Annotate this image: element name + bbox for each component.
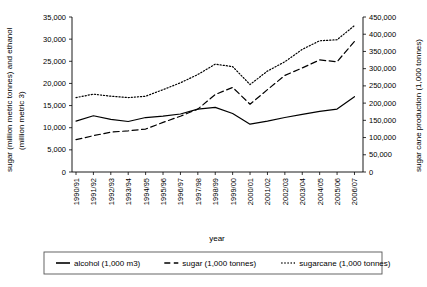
line-chart-figure: sugar (million metric tonnes) and ethano… xyxy=(0,0,427,287)
series-line-dotted xyxy=(76,26,354,98)
y-axis-left-tick-label: 15,000 xyxy=(43,101,66,110)
x-axis-tick-label: 2004/05 xyxy=(316,178,325,205)
x-axis-tick-label: 2001/02 xyxy=(263,178,272,205)
x-axis-tick-label: 2000/01 xyxy=(246,178,255,205)
x-axis-tick-label: 1991/92 xyxy=(89,178,98,205)
x-axis-tick-label: 1996/97 xyxy=(176,178,185,205)
y-axis-right-tick-label: 350,000 xyxy=(369,47,396,56)
x-axis-ticks: 1990/911991/921992/931993/941994/951995/… xyxy=(72,172,359,205)
y-axis-left-tick-label: 20,000 xyxy=(43,79,66,88)
y-axis-title-left-line2: (million metric 3) xyxy=(17,91,26,150)
x-axis-tick-label: 2003/04 xyxy=(298,178,307,205)
y-axis-title-left-line1: sugar (million metric tonnes) and ethano… xyxy=(5,27,14,172)
x-axis-tick-label: 1999/00 xyxy=(229,178,238,205)
y-axis-left-ticks: 05,00010,00015,00020,00025,00030,00035,0… xyxy=(43,13,72,177)
y-axis-left-tick-label: 30,000 xyxy=(43,35,66,44)
legend-label: sugarcane (1,000 tonnes) xyxy=(299,259,391,268)
x-axis-tick-label: 2002/03 xyxy=(281,178,290,205)
series-line-dashed xyxy=(76,41,354,139)
y-axis-left-tick-label: 35,000 xyxy=(43,13,66,22)
x-axis-tick-label: 1990/91 xyxy=(72,178,81,205)
x-axis-title: year xyxy=(209,234,225,243)
y-axis-right-ticks: 050,000100,000150,000200,000250,000300,0… xyxy=(363,13,396,177)
x-axis-tick-label: 2006/07 xyxy=(350,178,359,205)
y-axis-title-right: sugar cane production (1,000 tonnes) xyxy=(414,39,423,172)
legend-label: sugar (1,000 tonnes) xyxy=(182,259,256,268)
x-axis-tick-label: 1997/98 xyxy=(194,178,203,205)
y-axis-right-tick-label: 200,000 xyxy=(369,99,396,108)
x-axis-tick-label: 1994/95 xyxy=(142,178,151,205)
y-axis-right-tick-label: 100,000 xyxy=(369,133,396,142)
y-axis-right-tick-label: 400,000 xyxy=(369,30,396,39)
x-axis-tick-label: 1998/99 xyxy=(211,178,220,205)
y-axis-right-tick-label: 0 xyxy=(369,168,373,177)
y-axis-left-tick-label: 25,000 xyxy=(43,57,66,66)
data-series-group xyxy=(76,26,354,140)
legend: alcohol (1,000 m3)sugar (1,000 tonnes)su… xyxy=(56,259,391,268)
y-axis-right-tick-label: 300,000 xyxy=(369,64,396,73)
y-axis-left-tick-label: 5,000 xyxy=(47,145,66,154)
x-axis-tick-label: 1992/93 xyxy=(107,178,116,205)
y-axis-right-tick-label: 50,000 xyxy=(369,150,392,159)
series-line-solid xyxy=(76,97,354,124)
y-axis-right-tick-label: 450,000 xyxy=(369,13,396,22)
y-axis-right-tick-label: 250,000 xyxy=(369,81,396,90)
legend-label: alcohol (1,000 m3) xyxy=(74,259,141,268)
y-axis-left-tick-label: 10,000 xyxy=(43,123,66,132)
y-axis-left-tick-label: 0 xyxy=(62,168,66,177)
x-axis-tick-label: 2005/06 xyxy=(333,178,342,205)
y-axis-right-tick-label: 150,000 xyxy=(369,116,396,125)
x-axis-tick-label: 1995/96 xyxy=(159,178,168,205)
x-axis-tick-label: 1993/94 xyxy=(124,178,133,205)
